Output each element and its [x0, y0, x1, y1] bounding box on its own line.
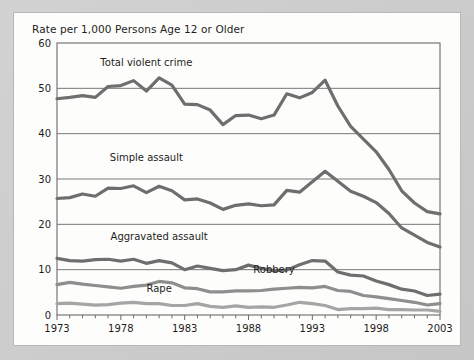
series-label-aggravated-assault: Aggravated assault	[111, 231, 208, 242]
x-tick-label-1993: 1993	[300, 323, 325, 334]
series-line-robbery	[57, 281, 440, 305]
series-label-robbery: Robbery	[253, 264, 295, 275]
y-tick-label-20: 20	[38, 219, 51, 230]
series-line-total-violent-crime	[57, 78, 440, 214]
y-tick-label-60: 60	[38, 38, 51, 49]
line-chart-svg: 0102030405060 19731978198319881993199820…	[14, 13, 460, 345]
y-axis-tick-labels: 0102030405060	[38, 38, 51, 321]
series-line-rape	[57, 302, 440, 311]
x-tick-label-1973: 1973	[44, 323, 69, 334]
y-tick-label-0: 0	[45, 310, 51, 321]
x-tick-label-1983: 1983	[172, 323, 197, 334]
x-tick-label-2003: 2003	[427, 323, 452, 334]
series-label-total-violent-crime: Total violent crime	[99, 57, 192, 68]
page-background: Rate per 1,000 Persons Age 12 or Older 0…	[0, 0, 474, 360]
x-axis-tick-labels: 1973197819831988199319982003	[44, 323, 452, 334]
x-tick-label-1978: 1978	[108, 323, 133, 334]
x-tick-label-1988: 1988	[236, 323, 261, 334]
data-series-group	[57, 78, 440, 311]
series-label-simple-assault: Simple assault	[110, 152, 183, 163]
chart-plot-area: 0102030405060 19731978198319881993199820…	[14, 13, 460, 345]
x-axis-ticks	[57, 315, 440, 320]
x-tick-label-1998: 1998	[363, 323, 388, 334]
y-tick-label-10: 10	[38, 264, 51, 275]
y-tick-label-30: 30	[38, 174, 51, 185]
y-tick-label-40: 40	[38, 128, 51, 139]
y-tick-label-50: 50	[38, 83, 51, 94]
series-annotation-labels: Total violent crimeSimple assaultAggrava…	[99, 57, 294, 294]
series-label-rape: Rape	[146, 283, 171, 294]
chart-card: Rate per 1,000 Persons Age 12 or Older 0…	[14, 13, 460, 345]
